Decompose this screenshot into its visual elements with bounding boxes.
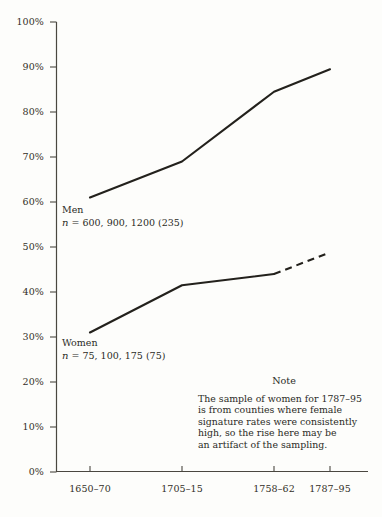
sample-size-values: = 75, 100, 175 (75) (71, 350, 165, 361)
ytick-label: 30% (2, 332, 44, 342)
ytick-label: 40% (2, 287, 44, 297)
y-tick-marks (50, 22, 57, 472)
note-body: The sample of women for 1787–95 is from … (198, 393, 370, 451)
ytick-label: 70% (2, 152, 44, 162)
series-line-women-solid (90, 274, 274, 333)
series-annotation-men-name: Men (62, 204, 184, 217)
note-block: Note The sample of women for 1787–95 is … (198, 375, 370, 451)
series-annotation-men: Men n = 600, 900, 1200 (235) (62, 204, 184, 229)
ytick-label: 10% (2, 422, 44, 432)
ytick-label: 20% (2, 377, 44, 387)
ytick-label: 90% (2, 62, 44, 72)
series-annotation-women-name: Women (62, 337, 165, 350)
sample-size-values: = 600, 900, 1200 (235) (71, 217, 183, 228)
ytick-label: 100% (2, 17, 44, 27)
chart-figure: 100% 90% 80% 70% 60% 50% 40% 30% 20% 10%… (0, 0, 382, 517)
ytick-label: 80% (2, 107, 44, 117)
series-line-women-projected-dashed (274, 252, 330, 274)
ytick-label: 60% (2, 197, 44, 207)
series-line-men (90, 69, 330, 197)
note-title: Note (198, 375, 370, 387)
xtick-label: 1705–15 (142, 483, 222, 494)
series-annotation-women-sample: n = 75, 100, 175 (75) (62, 350, 165, 363)
xtick-label: 1650–70 (50, 483, 130, 494)
ytick-label: 50% (2, 242, 44, 252)
sample-size-symbol: n (62, 350, 68, 361)
ytick-label: 0% (2, 467, 44, 477)
xtick-label: 1787–95 (290, 483, 370, 494)
series-annotation-men-sample: n = 600, 900, 1200 (235) (62, 217, 184, 230)
series-annotation-women: Women n = 75, 100, 175 (75) (62, 337, 165, 362)
sample-size-symbol: n (62, 217, 68, 228)
